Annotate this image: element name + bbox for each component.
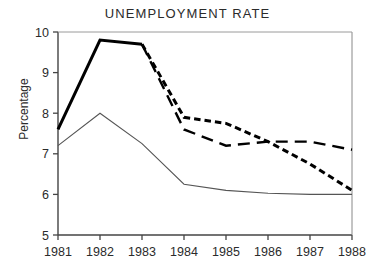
x-tick-label: 1984 bbox=[170, 245, 198, 259]
x-tick-label: 1983 bbox=[128, 245, 156, 259]
plot-area: 5678910 19811982198319841985198619871988 bbox=[0, 0, 375, 279]
y-tick-label: 10 bbox=[35, 26, 49, 40]
unemployment-rate-chart: UNEMPLOYMENT RATE Percentage 5678910 198… bbox=[0, 0, 375, 279]
y-tick-label: 6 bbox=[42, 188, 49, 202]
y-axis-ticks: 5678910 bbox=[35, 26, 58, 243]
x-tick-label: 1985 bbox=[212, 245, 240, 259]
y-tick-label: 5 bbox=[42, 229, 49, 243]
x-axis-ticks: 19811982198319841985198619871988 bbox=[44, 235, 366, 259]
x-tick-label: 1986 bbox=[254, 245, 282, 259]
series-history-thick-solid bbox=[58, 40, 142, 129]
x-tick-label: 1982 bbox=[86, 245, 114, 259]
data-series bbox=[58, 40, 352, 194]
y-tick-label: 7 bbox=[42, 147, 49, 161]
axes bbox=[58, 32, 352, 235]
x-tick-label: 1981 bbox=[44, 245, 72, 259]
x-tick-label: 1987 bbox=[296, 245, 324, 259]
y-tick-label: 8 bbox=[42, 107, 49, 121]
series-projection-short-dash bbox=[142, 44, 352, 190]
series-baseline-thin-solid bbox=[58, 113, 352, 194]
x-tick-label: 1988 bbox=[338, 245, 366, 259]
y-tick-label: 9 bbox=[42, 66, 49, 80]
